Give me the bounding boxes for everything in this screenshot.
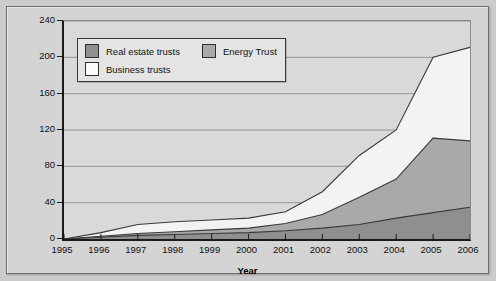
legend-label-business-trusts: Business trusts xyxy=(106,64,170,75)
legend-item-energy-trust: Energy Trust xyxy=(202,44,277,58)
x-tick-2006: 2006 xyxy=(446,245,490,255)
y-tick-mark-0 xyxy=(57,238,62,239)
y-tick-160: 160 xyxy=(15,88,55,98)
y-tick-mark-160 xyxy=(57,93,62,94)
legend-swatch-energy-trust xyxy=(202,44,216,58)
legend-label-energy-trust: Energy Trust xyxy=(223,46,277,57)
x-axis-title: Year xyxy=(7,265,488,276)
y-tick-mark-80 xyxy=(57,165,62,166)
legend-swatch-business-trusts xyxy=(85,62,99,76)
y-tick-mark-40 xyxy=(57,202,62,203)
y-tick-0: 0 xyxy=(15,233,55,243)
y-tick-mark-240 xyxy=(57,20,62,21)
legend-swatch-real-estate-trusts xyxy=(85,44,99,58)
y-tick-240: 240 xyxy=(15,15,55,25)
legend-item-real-estate-trusts: Real estate trusts xyxy=(85,44,180,58)
chart-legend: Real estate trusts Energy Trust Business… xyxy=(77,38,286,82)
chart-panel: Market Capitalization ($ billions) 24020… xyxy=(6,6,489,274)
y-tick-mark-200 xyxy=(57,56,62,57)
legend-label-real-estate-trusts: Real estate trusts xyxy=(106,46,180,57)
y-tick-40: 40 xyxy=(15,197,55,207)
legend-row-1: Real estate trusts Energy Trust xyxy=(85,44,277,58)
legend-row-2: Business trusts xyxy=(85,62,277,76)
chart-figure-frame: Market Capitalization ($ billions) 24020… xyxy=(0,0,496,281)
y-tick-80: 80 xyxy=(15,160,55,170)
y-tick-120: 120 xyxy=(15,124,55,134)
y-tick-200: 200 xyxy=(15,51,55,61)
legend-item-business-trusts: Business trusts xyxy=(85,62,170,76)
y-tick-mark-120 xyxy=(57,129,62,130)
